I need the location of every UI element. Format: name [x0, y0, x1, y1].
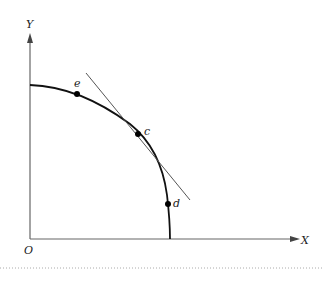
point-e	[74, 91, 80, 97]
ppf-diagram: Y X O e c d	[0, 0, 324, 281]
point-e-label: e	[74, 77, 81, 90]
origin-label: O	[24, 244, 33, 257]
point-c	[135, 131, 141, 137]
x-axis-label: X	[300, 234, 310, 247]
x-axis-arrow-icon	[290, 236, 300, 242]
point-c-label: c	[144, 125, 150, 138]
y-axis-arrow-icon	[27, 33, 33, 43]
point-d	[165, 201, 171, 207]
ppf-curve	[30, 85, 170, 239]
y-axis-label: Y	[26, 18, 35, 31]
point-d-label: d	[173, 197, 180, 210]
